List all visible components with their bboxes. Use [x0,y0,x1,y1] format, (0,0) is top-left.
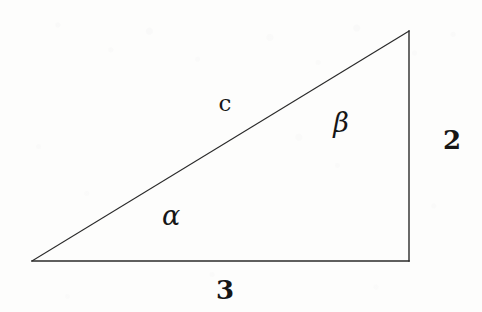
triangle-drawing [0,0,482,312]
hypotenuse-label-c: c [219,92,232,115]
side-length-label-bottom: 3 [216,277,234,303]
triangle-hypotenuse-line [32,31,409,261]
side-length-label-right: 2 [443,127,461,153]
angle-label-beta: β [333,109,349,136]
geometry-figure: c β α 2 3 [0,0,482,312]
angle-label-alpha: α [162,202,180,229]
